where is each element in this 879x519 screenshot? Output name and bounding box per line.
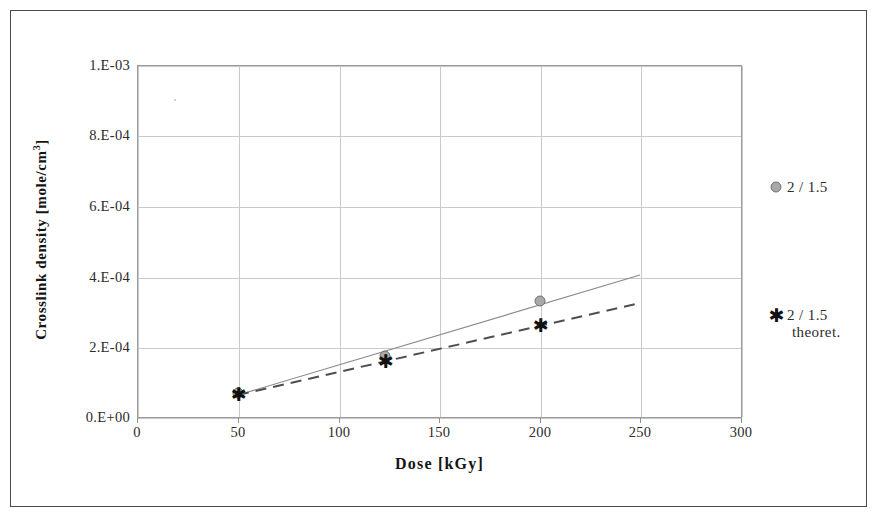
- legend-sublabel-series-2: theoret.: [792, 324, 841, 341]
- figure-root: ✱ ✱ ✱ 1.E-03 8.E-04 6.E-04 4.E-04 2.E-04…: [0, 0, 879, 519]
- x-tickmark-300: [741, 418, 742, 423]
- gridline-x-150: [440, 66, 441, 417]
- x-ticklabel-1: 50: [208, 424, 268, 441]
- y-ticklabel-4: 8.E-04: [60, 127, 130, 144]
- gridline-x-100: [340, 66, 341, 417]
- x-ticklabel-5: 250: [610, 424, 670, 441]
- x-ticklabel-2: 100: [309, 424, 369, 441]
- y-axis-title-text: Crosslink density [mole/cm: [33, 150, 49, 340]
- y-ticklabel-0: 0.E+00: [60, 409, 130, 426]
- x-tickmark-150: [439, 418, 440, 423]
- asterisk-marker-icon: ✱: [533, 316, 549, 335]
- y-axis-title: Crosslink density [mole/cm3]: [31, 70, 50, 410]
- y-ticklabel-5: 1.E-03: [60, 57, 130, 74]
- x-axis-title: Dose [kGy]: [137, 455, 742, 473]
- y-ticklabel-1: 2.E-04: [60, 339, 130, 356]
- gridline-x-50: [239, 66, 240, 417]
- chart-canvas: ✱ ✱ ✱ 1.E-03 8.E-04 6.E-04 4.E-04 2.E-04…: [0, 0, 879, 519]
- y-axis-title-exponent: 3: [31, 145, 42, 151]
- legend-label-series-2: 2 / 1.5: [786, 306, 828, 324]
- legend-entry-series-2[interactable]: ✱ 2 / 1.5: [770, 306, 828, 324]
- y-ticklabel-2: 4.E-04: [60, 269, 130, 286]
- x-axis-ticklabels: 0 50 100 150 200 250 300: [137, 424, 742, 450]
- y-axis-title-close: ]: [33, 139, 49, 145]
- scan-speck: [174, 99, 176, 101]
- x-ticklabel-4: 200: [510, 424, 570, 441]
- x-tickmark-100: [339, 418, 340, 423]
- x-tickmark-50: [238, 418, 239, 423]
- plot-area: [137, 65, 742, 418]
- y-ticklabel-3: 6.E-04: [60, 198, 130, 215]
- gridline-x-0: [138, 66, 139, 417]
- x-ticklabel-3: 150: [409, 424, 469, 441]
- legend-entry-series-1[interactable]: 2 / 1.5: [770, 178, 828, 196]
- legend-label-series-1: 2 / 1.5: [786, 178, 828, 196]
- legend-circle-marker-icon: [770, 178, 786, 196]
- legend-asterisk-marker-icon: ✱: [770, 306, 786, 324]
- x-ticklabel-6: 300: [711, 424, 771, 441]
- x-tickmark-250: [640, 418, 641, 423]
- x-tickmark-0: [137, 418, 138, 423]
- asterisk-marker-icon: ✱: [231, 385, 247, 404]
- x-tickmark-200: [540, 418, 541, 423]
- circle-marker-icon: [535, 296, 546, 307]
- gridline-x-200: [541, 66, 542, 417]
- y-axis-ticklabels: 1.E-03 8.E-04 6.E-04 4.E-04 2.E-04 0.E+0…: [55, 65, 130, 418]
- asterisk-marker-icon: ✱: [378, 352, 394, 371]
- gridline-x-300: [742, 66, 743, 417]
- x-ticklabel-0: 0: [107, 424, 167, 441]
- gridline-x-250: [641, 66, 642, 417]
